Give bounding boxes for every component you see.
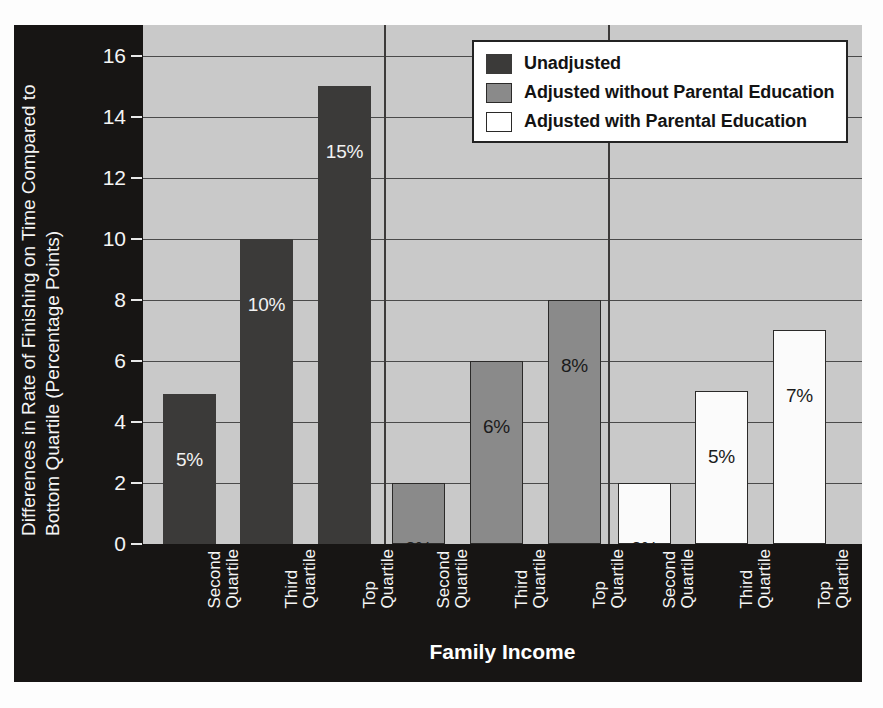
x-tick-label-line2: Quartile bbox=[678, 549, 696, 609]
gridline bbox=[143, 178, 862, 179]
bar-data-label: 15% bbox=[326, 141, 363, 163]
y-tick-mark bbox=[131, 543, 142, 545]
x-tick-label-line2: Quartile bbox=[452, 549, 470, 609]
y-tick-mark bbox=[131, 482, 142, 484]
legend-item-adjusted-with-parental-education: Adjusted with Parental Education bbox=[486, 107, 836, 136]
y-tick-label: 14 bbox=[103, 105, 126, 129]
bar-data-label: 10% bbox=[248, 294, 285, 316]
bar-data-label: 2% bbox=[631, 538, 658, 544]
bar bbox=[548, 300, 601, 544]
y-tick-label: 12 bbox=[103, 166, 126, 190]
y-tick-label: 2 bbox=[114, 471, 126, 495]
x-tick-label-line1: Third bbox=[738, 549, 756, 609]
y-axis-title-line2: Bottom Quartile (Percentage Points) bbox=[42, 231, 64, 536]
legend-item-unadjusted: Unadjusted bbox=[486, 49, 836, 78]
bar bbox=[773, 330, 826, 544]
legend-label-adjusted-with-parental-education: Adjusted with Parental Education bbox=[524, 111, 807, 132]
x-axis-title: Family Income bbox=[143, 640, 862, 664]
bar bbox=[392, 483, 445, 544]
legend-swatch-unadjusted bbox=[486, 54, 512, 74]
y-tick-mark bbox=[131, 55, 142, 57]
legend-swatch-adjusted-with-parental-education bbox=[486, 112, 512, 132]
bar-data-label: 2% bbox=[405, 538, 432, 544]
bar bbox=[240, 239, 293, 544]
x-tick-label-line1: Third bbox=[283, 549, 301, 609]
legend-label-unadjusted: Unadjusted bbox=[524, 53, 621, 74]
y-tick-label: 10 bbox=[103, 227, 126, 251]
y-tick-label: 16 bbox=[103, 44, 126, 68]
x-tick-label-line1: Third bbox=[513, 549, 531, 609]
x-tick-label-line1: Second bbox=[435, 549, 453, 609]
x-tick-label-line2: Quartile bbox=[755, 549, 773, 609]
x-tick-label-line2: Quartile bbox=[223, 549, 241, 609]
group-separator bbox=[384, 25, 386, 544]
x-tick-label-line1: Top bbox=[816, 549, 834, 609]
x-tick-label-line1: Second bbox=[661, 549, 679, 609]
y-tick-mark bbox=[131, 360, 142, 362]
x-tick-label-line2: Quartile bbox=[530, 549, 548, 609]
y-tick-label: 8 bbox=[114, 288, 126, 312]
x-tick-label-line1: Top bbox=[591, 549, 609, 609]
y-tick-mark bbox=[131, 177, 142, 179]
x-tick-label-line2: Quartile bbox=[833, 549, 851, 609]
bar-data-label: 7% bbox=[786, 385, 813, 407]
legend-swatch-adjusted-without-parental-education bbox=[486, 83, 512, 103]
bar-data-label: 5% bbox=[176, 449, 203, 471]
chart-figure: Differences in Rate of Finishing on Time… bbox=[0, 0, 883, 708]
legend-item-adjusted-without-parental-education: Adjusted without Parental Education bbox=[486, 78, 836, 107]
bar bbox=[470, 361, 523, 544]
legend-label-adjusted-without-parental-education: Adjusted without Parental Education bbox=[524, 82, 835, 103]
bar-data-label: 6% bbox=[483, 416, 510, 438]
y-tick-label: 6 bbox=[114, 349, 126, 373]
y-axis-title: Differences in Rate of Finishing on Time… bbox=[18, 25, 74, 544]
y-tick-mark bbox=[131, 238, 142, 240]
y-tick-label: 4 bbox=[114, 410, 126, 434]
bar-data-label: 5% bbox=[708, 446, 735, 468]
bar-data-label: 8% bbox=[561, 355, 588, 377]
y-tick-mark bbox=[131, 421, 142, 423]
x-tick-label-line1: Top bbox=[361, 549, 379, 609]
y-axis-title-line1: Differences in Rate of Finishing on Time… bbox=[18, 84, 40, 536]
x-tick-label-line2: Quartile bbox=[300, 549, 318, 609]
x-tick-label-line1: Second bbox=[206, 549, 224, 609]
bar bbox=[618, 483, 671, 544]
y-tick-mark bbox=[131, 116, 142, 118]
y-tick-mark bbox=[131, 299, 142, 301]
y-tick-label: 0 bbox=[114, 532, 126, 556]
chart-legend: Unadjusted Adjusted without Parental Edu… bbox=[472, 40, 848, 143]
